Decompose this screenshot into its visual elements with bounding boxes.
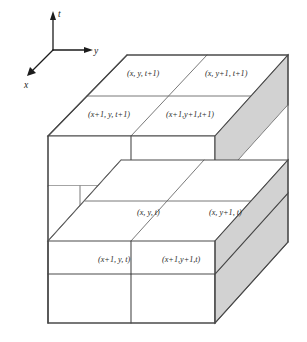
- label-cell-xplus1-yplus1-tplus1: (x+1,y+1,t+1): [166, 110, 214, 119]
- label-cell-xplus1-yplus1-t: (x+1,y+1,t): [162, 255, 201, 264]
- label-cell-x-yplus1-tplus1: (x, y+1, t+1): [205, 69, 248, 78]
- y-axis-arrowhead: [84, 47, 93, 53]
- figure-container: t y x (x, y, t+1) (x, y+1, t+1) (x+1, y,…: [0, 0, 307, 342]
- y-axis-label: y: [93, 46, 99, 56]
- label-cell-x-y-t: (x, y, t): [137, 208, 160, 217]
- t-axis-label: t: [58, 9, 61, 19]
- label-cell-x-y-tplus1: (x, y, t+1): [127, 69, 160, 78]
- x-axis-label: x: [23, 80, 29, 90]
- axis-triad: t y x: [23, 9, 99, 90]
- label-cell-xplus1-y-tplus1: (x+1, y, t+1): [88, 110, 130, 119]
- t-axis-arrowhead: [50, 11, 56, 20]
- label-cell-x-yplus1-t: (x, y+1, t): [209, 208, 242, 217]
- label-cell-xplus1-y-t: (x+1, y, t): [98, 255, 131, 264]
- x-axis-line: [31, 50, 53, 72]
- cube-diagram-svg: t y x (x, y, t+1) (x, y+1, t+1) (x+1, y,…: [0, 0, 307, 342]
